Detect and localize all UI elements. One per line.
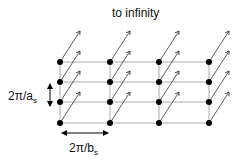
arrow-to-infinity [209, 31, 229, 62]
lattice-point [57, 120, 63, 126]
lattice-point [156, 59, 162, 65]
lattice-point [107, 120, 113, 126]
lattice-point [107, 59, 113, 65]
lattice-point [156, 79, 162, 85]
arrow-to-infinity [60, 31, 80, 62]
arrow-to-infinity [110, 31, 130, 62]
lattice-point [57, 79, 63, 85]
lattice-point [156, 120, 162, 126]
lattice-point [107, 99, 113, 105]
arrow-to-infinity [209, 51, 229, 82]
lattice-point [206, 120, 212, 126]
arrow-to-infinity [60, 51, 80, 82]
lattice-diagram [0, 0, 243, 167]
lattice-point [206, 79, 212, 85]
lattice-point [206, 99, 212, 105]
arrow-to-infinity [159, 51, 179, 82]
arrow-to-infinity [110, 51, 130, 82]
lattice-point [206, 59, 212, 65]
arrow-to-infinity [159, 31, 179, 62]
lattice-point [57, 99, 63, 105]
lattice-point [57, 59, 63, 65]
lattice-point [107, 79, 113, 85]
lattice-point [156, 99, 162, 105]
